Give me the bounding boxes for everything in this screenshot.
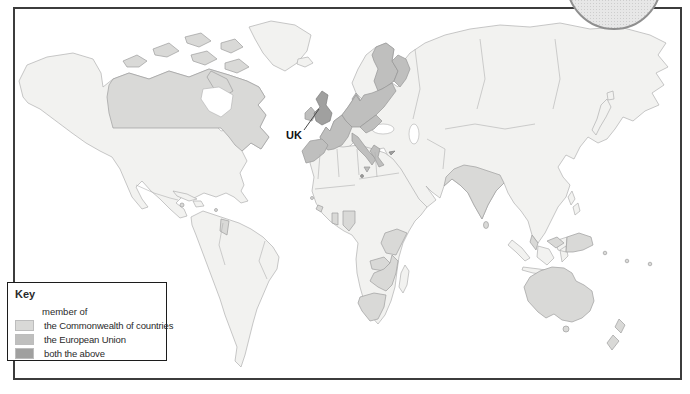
key-item-commonwealth: the Commonwealth of countries xyxy=(15,320,160,331)
solomon-dot xyxy=(603,251,607,255)
both-label: both the above xyxy=(44,348,105,359)
antilles-dot xyxy=(215,209,218,212)
philippines-landmass xyxy=(568,191,580,215)
madagascar-landmass xyxy=(399,265,409,293)
ghana-region xyxy=(332,213,338,225)
tasmania-dot xyxy=(563,326,569,332)
new-zealand-region xyxy=(607,319,625,350)
papua-new-guinea-region xyxy=(566,233,593,252)
key-title: Key xyxy=(15,288,160,300)
commonwealth-swatch xyxy=(15,320,34,331)
key-item-eu: the European Union xyxy=(15,334,160,345)
iceland-landmass xyxy=(297,57,313,67)
caspian-sea xyxy=(409,124,419,144)
sri-lanka-dot xyxy=(484,222,489,229)
hokkaido-landmass xyxy=(607,91,614,100)
eu-swatch xyxy=(15,334,34,345)
jamaica-dot xyxy=(180,203,184,207)
gambia-dot xyxy=(311,197,314,200)
uk-label: UK xyxy=(286,129,302,141)
hispaniola-landmass xyxy=(193,201,204,207)
textbook-page: UK Key member of the Commonwealth of cou… xyxy=(0,0,690,394)
uk-region xyxy=(314,91,332,125)
vanuatu-dot xyxy=(625,259,629,263)
south-america-landmass xyxy=(191,211,279,367)
malta-dot xyxy=(361,175,364,178)
australia-region xyxy=(524,267,594,322)
india-region xyxy=(444,165,504,219)
both-swatch xyxy=(15,348,34,359)
eu-label: the European Union xyxy=(44,334,126,345)
key-subtitle: member of xyxy=(42,306,160,317)
commonwealth-label: the Commonwealth of countries xyxy=(44,320,173,331)
map-key: Key member of the Commonwealth of countr… xyxy=(7,282,167,361)
key-item-both: both the above xyxy=(15,348,160,359)
fiji-dot xyxy=(648,262,652,266)
